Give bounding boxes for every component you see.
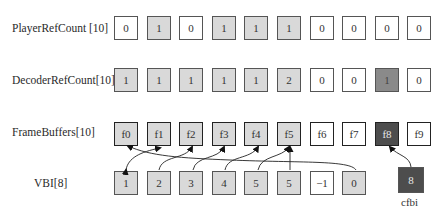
arrow-vbi7-f0 (128, 146, 356, 170)
arrow-vbi4-f5 (258, 147, 289, 170)
arrow-vbi1-f2 (159, 147, 192, 170)
arrow-vbi3-f4 (225, 147, 258, 170)
arrow-cfbi-f8 (390, 147, 411, 167)
pointer-arrows (0, 0, 444, 216)
